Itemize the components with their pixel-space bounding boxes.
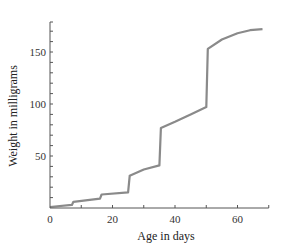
y-tick-label: 100 — [30, 98, 47, 110]
y-tick-label: 150 — [30, 46, 47, 58]
x-tick-label: 20 — [107, 213, 119, 225]
x-tick-label: 0 — [47, 213, 53, 225]
chart: 50100150 0204060 Age in days Weight in m… — [0, 0, 282, 250]
y-axis-title: Weight in milligrams — [6, 65, 20, 167]
plot-area — [50, 29, 263, 207]
axes: 50100150 0204060 — [30, 22, 269, 225]
x-axis-title: Age in days — [137, 229, 195, 243]
x-tick-label: 60 — [232, 213, 244, 225]
weight-series-line — [50, 29, 263, 207]
x-tick-label: 40 — [170, 213, 182, 225]
y-tick-label: 50 — [35, 150, 47, 162]
y-ticks: 50100150 — [30, 31, 54, 197]
